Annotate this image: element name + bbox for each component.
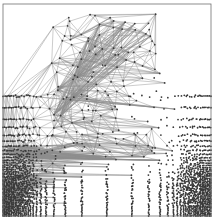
- mesh-figure: [0, 0, 214, 220]
- mesh-canvas: [0, 0, 214, 220]
